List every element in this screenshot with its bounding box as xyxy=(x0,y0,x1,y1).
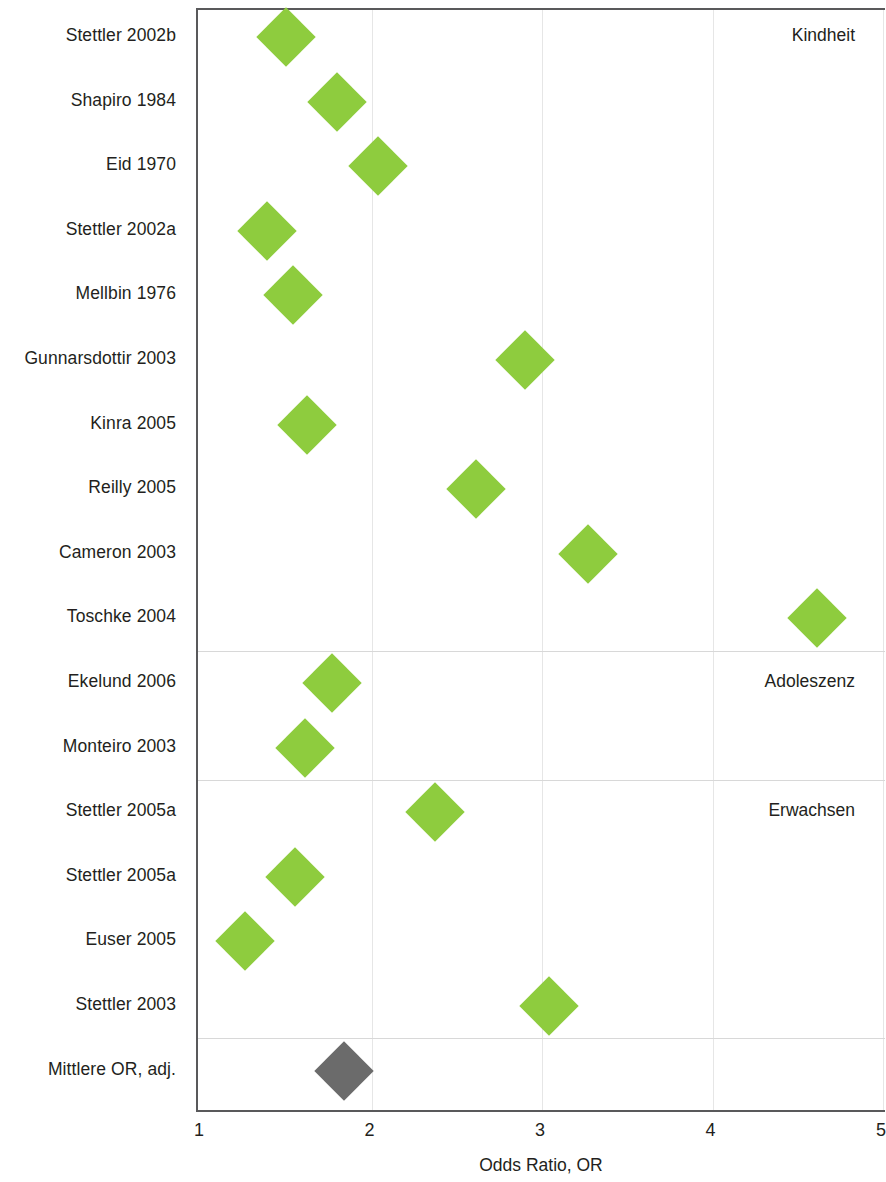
category-label: Gunnarsdottir 2003 xyxy=(24,348,176,369)
gridline-4 xyxy=(713,10,714,1110)
data-point-marker xyxy=(349,136,408,195)
data-point-marker xyxy=(519,976,578,1035)
category-label: Ekelund 2006 xyxy=(68,671,176,692)
data-point-marker xyxy=(275,718,334,777)
x-tick-label: 4 xyxy=(705,1120,715,1141)
category-label: Cameron 2003 xyxy=(59,541,176,562)
group-annotation: Erwachsen xyxy=(768,800,855,821)
data-point-marker xyxy=(405,782,464,841)
data-point-marker xyxy=(263,266,322,325)
category-label: Stettler 2003 xyxy=(75,994,176,1015)
category-label: Mellbin 1976 xyxy=(76,283,176,304)
data-point-marker xyxy=(446,459,505,518)
plot-area xyxy=(196,8,885,1112)
x-tick-label: 2 xyxy=(364,1120,374,1141)
category-label: Toschke 2004 xyxy=(67,606,176,627)
group-annotation: Adoleszenz xyxy=(765,671,855,692)
data-point-marker xyxy=(495,330,554,389)
x-tick-label: 5 xyxy=(876,1120,886,1141)
data-point-marker xyxy=(315,1041,374,1100)
category-label: Euser 2005 xyxy=(85,929,176,950)
x-axis-title: Odds Ratio, OR xyxy=(479,1155,603,1176)
category-label: Kinra 2005 xyxy=(90,412,176,433)
category-label: Stettler 2005a xyxy=(66,864,176,885)
category-label: Monteiro 2003 xyxy=(63,735,176,756)
x-tick-label: 3 xyxy=(535,1120,545,1141)
group-annotation: Kindheit xyxy=(792,25,855,46)
group-separator xyxy=(198,780,885,781)
data-point-marker xyxy=(238,201,297,260)
category-label: Stettler 2002b xyxy=(66,25,176,46)
gridline-3 xyxy=(542,10,543,1110)
category-label: Stettler 2002a xyxy=(66,218,176,239)
data-point-marker xyxy=(303,653,362,712)
category-label: Eid 1970 xyxy=(106,154,176,175)
data-point-marker xyxy=(308,72,367,131)
group-separator xyxy=(198,651,885,652)
gridline-5 xyxy=(883,10,884,1110)
category-label: Shapiro 1984 xyxy=(71,89,176,110)
x-tick-label: 1 xyxy=(194,1120,204,1141)
data-point-marker xyxy=(277,395,336,454)
category-label: Mittlere OR, adj. xyxy=(48,1058,176,1079)
data-point-marker xyxy=(558,524,617,583)
group-separator xyxy=(198,1038,885,1039)
data-point-marker xyxy=(787,589,846,648)
data-point-marker xyxy=(216,912,275,971)
data-point-marker xyxy=(257,7,316,66)
category-label: Reilly 2005 xyxy=(88,477,176,498)
data-point-marker xyxy=(265,847,324,906)
category-label: Stettler 2005a xyxy=(66,800,176,821)
